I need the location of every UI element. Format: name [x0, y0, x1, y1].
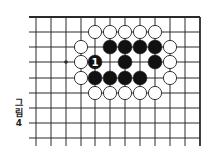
black-stone: [133, 40, 147, 54]
white-stone: [74, 40, 87, 53]
caption-char: 그: [15, 98, 23, 108]
white-stone: [163, 40, 176, 53]
black-stone: 1: [88, 55, 102, 69]
caption-char: 림: [15, 108, 23, 118]
white-stone: [88, 25, 101, 38]
black-stone: [103, 71, 117, 85]
star-points: [64, 60, 68, 64]
white-stone: [133, 86, 146, 99]
white-stone: [118, 86, 131, 99]
white-stone: [148, 86, 161, 99]
figure-caption: 그 림 4: [13, 98, 25, 128]
white-stone: [103, 25, 116, 38]
black-stone: [88, 71, 102, 85]
white-stone: [88, 86, 101, 99]
black-stone: [148, 55, 162, 69]
black-stone: [118, 40, 132, 54]
white-stone: [148, 25, 161, 38]
white-stone: [103, 86, 116, 99]
black-stone: [148, 40, 162, 54]
white-stone: [163, 71, 176, 84]
white-stone: [118, 25, 131, 38]
black-stone: [103, 40, 117, 54]
move-number-label: 1: [92, 57, 99, 68]
white-stone: [74, 55, 87, 68]
black-stone: [118, 55, 132, 69]
caption-char: 4: [16, 118, 22, 128]
black-stone: [133, 71, 147, 85]
go-board: 1: [0, 0, 214, 159]
stones: 1: [74, 25, 176, 99]
white-stone: [163, 55, 176, 68]
black-stone: [118, 71, 132, 85]
white-stone: [74, 71, 87, 84]
white-stone: [133, 25, 146, 38]
star-point-icon: [64, 60, 68, 64]
